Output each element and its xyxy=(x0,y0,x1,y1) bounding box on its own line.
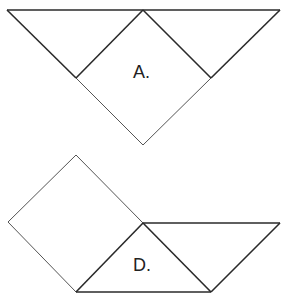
figure-a-square-upper-right-edge xyxy=(143,10,211,78)
figure-d-right-edge xyxy=(211,223,280,292)
figure-a-left-outer-edge xyxy=(7,10,76,78)
figure-a-right-outer-edge xyxy=(211,10,280,78)
figure-a-label: A. xyxy=(133,63,150,81)
figure-d-middle-diagonal xyxy=(143,223,211,292)
figure-a-square-lower-edges xyxy=(76,78,211,145)
figure-d-square xyxy=(8,155,143,292)
figure-d-label: D. xyxy=(133,256,151,274)
